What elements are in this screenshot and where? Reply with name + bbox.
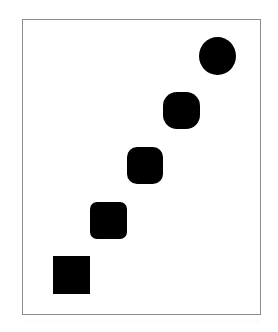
- figure-frame: [22, 19, 261, 315]
- scan-artifact-row: [24, 320, 260, 323]
- shape-rounded-square-small-radius: [90, 202, 127, 239]
- figure-canvas: [0, 0, 278, 332]
- shape-circle: [199, 37, 236, 75]
- shape-square: [53, 256, 90, 294]
- shape-squircle-large-radius: [163, 92, 200, 129]
- shape-rounded-square-medium-radius: [127, 147, 163, 184]
